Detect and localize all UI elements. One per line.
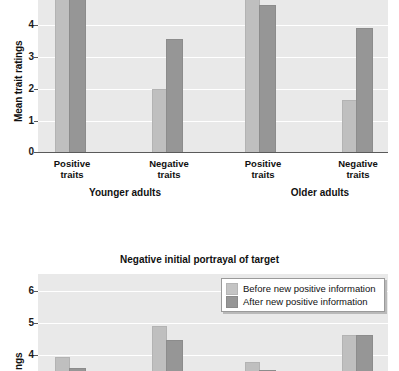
top-chart-category-older-positive: Positive traits: [231, 158, 295, 180]
top-chart-ytick-1: 1: [12, 116, 34, 126]
bottom-chart-ytick-4: 4: [12, 350, 34, 360]
legend-swatch-before-icon: [226, 283, 238, 295]
gridline: [38, 323, 388, 324]
top-chart-ytick-0: 0: [12, 147, 34, 157]
top-chart-category-younger-positive: Positive traits: [40, 158, 104, 180]
top-chart-group-older-adults: Older adults: [255, 187, 385, 198]
bottom-chart: Negative initial portrayal of target ngs…: [0, 210, 399, 371]
top-chart-category-older-negative: Negative traits: [326, 158, 390, 180]
legend-item-after: After new positive information: [226, 295, 378, 308]
gridline: [38, 89, 388, 90]
bar-before-older-positive: [245, 0, 260, 152]
gridline: [38, 355, 388, 356]
gridline: [38, 121, 388, 122]
legend-label-before: Before new positive information: [243, 283, 376, 294]
legend-item-before: Before new positive information: [226, 282, 378, 295]
bar-before-younger-negative: [152, 89, 167, 152]
bar-before-younger-positive: [55, 0, 70, 152]
bar-after-younger-negative: [166, 340, 183, 371]
bar-after-older-positive: [259, 5, 276, 152]
legend-label-after: After new positive information: [243, 296, 368, 307]
top-chart-category-younger-negative: Negative traits: [137, 158, 201, 180]
bar-before-older-positive: [245, 362, 260, 371]
bottom-chart-title: Negative initial portrayal of target: [0, 254, 399, 265]
bar-after-younger-negative: [166, 39, 183, 152]
top-chart-group-younger-adults: Younger adults: [60, 187, 190, 198]
top-chart-plot-area: [38, 0, 388, 152]
top-chart-ytick-3: 3: [12, 52, 34, 62]
gridline: [38, 25, 388, 26]
top-chart-ytick-2: 2: [12, 84, 34, 94]
bottom-chart-legend: Before new positive information After ne…: [221, 278, 385, 312]
bar-before-older-negative: [342, 100, 357, 152]
top-chart-x-axis: [38, 152, 388, 153]
top-chart: Mean trait ratings 4 3 2 1 0 Positive tr…: [0, 0, 399, 210]
bar-after-older-negative: [356, 28, 373, 152]
bottom-chart-ytick-6: 6: [12, 286, 34, 296]
bar-after-younger-positive: [69, 0, 86, 152]
bar-before-older-negative: [342, 335, 357, 371]
bar-before-younger-negative: [152, 326, 167, 371]
top-chart-ytick-4: 4: [12, 20, 34, 30]
legend-swatch-after-icon: [226, 296, 238, 308]
bar-after-older-negative: [356, 335, 373, 371]
bar-before-younger-positive: [55, 357, 70, 371]
gridline: [38, 57, 388, 58]
bottom-chart-ytick-5: 5: [12, 318, 34, 328]
